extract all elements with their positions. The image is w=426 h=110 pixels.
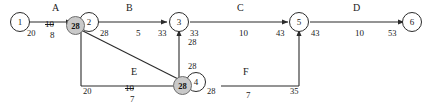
event-time-node-4-above: 28 [188, 62, 197, 71]
event-time-node-4-right: 28 [207, 87, 216, 96]
activity-label-c: C [237, 3, 244, 13]
activity-e-crossed-duration: 10 [125, 83, 134, 93]
activity-a-duration: 8 [50, 31, 55, 40]
event-marker-node-2[interactable]: 28 [66, 16, 85, 35]
network-diagram-canvas: 1 2 3 4 5 6 28 28 A B C D E F 10 8 5 10 … [0, 0, 426, 110]
event-marker-node-4[interactable]: 28 [173, 76, 192, 95]
event-time-node-3-below: 28 [188, 38, 197, 47]
event-time-node-1-right: 20 [27, 29, 36, 38]
activity-e-duration: 7 [130, 95, 135, 104]
event-time-node-6-left: 53 [388, 29, 397, 38]
event-time-node-3-left: 33 [158, 29, 167, 38]
event-time-node-2-right: 28 [100, 29, 109, 38]
activity-label-b: B [126, 3, 133, 13]
event-time-f-end: 35 [290, 87, 299, 96]
activity-b-duration: 5 [136, 29, 141, 38]
activity-a-crossed-duration: 10 [45, 19, 54, 29]
event-time-node-5-left: 43 [276, 29, 285, 38]
activity-c-duration: 10 [239, 29, 248, 38]
node-3[interactable]: 3 [169, 12, 189, 32]
event-time-e-start: 20 [83, 87, 92, 96]
activity-label-e: E [131, 67, 137, 77]
activity-label-d: D [353, 3, 360, 13]
activity-f-duration: 7 [246, 91, 251, 100]
activity-label-f: F [243, 67, 249, 77]
event-time-node-5-right: 43 [311, 29, 320, 38]
activity-d-duration: 10 [355, 29, 364, 38]
node-5[interactable]: 5 [289, 12, 309, 32]
activity-label-a: A [52, 3, 59, 13]
node-6[interactable]: 6 [402, 12, 422, 32]
